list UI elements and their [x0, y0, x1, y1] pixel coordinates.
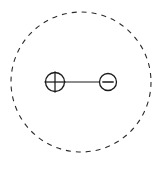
electric-dipole-figure: [0, 0, 163, 171]
negative-charge-group: [100, 74, 117, 91]
caption-sliver: [0, 163, 163, 171]
figure-background: [0, 0, 163, 171]
figure-root: [0, 0, 163, 171]
